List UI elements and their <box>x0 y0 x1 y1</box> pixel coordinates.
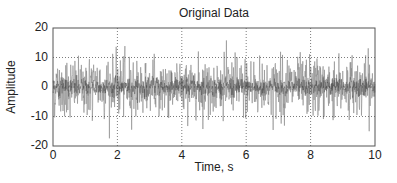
signal-trace <box>53 40 375 138</box>
chart: Original Data Amplitude Time, s 20100-10… <box>0 0 397 183</box>
gridlines <box>53 28 375 146</box>
plot-area <box>0 0 397 183</box>
